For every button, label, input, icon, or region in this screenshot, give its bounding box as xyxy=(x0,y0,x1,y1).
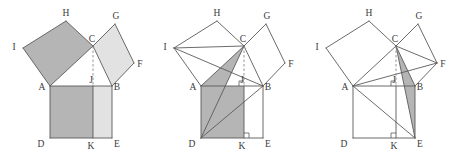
vertex-label-B: B xyxy=(114,82,120,92)
edge-CG xyxy=(396,24,418,46)
right-angle-at-K xyxy=(244,133,249,138)
vertex-label-C: C xyxy=(392,34,398,44)
rectangle-JBEK xyxy=(93,86,112,138)
square-on-leg-BC xyxy=(93,24,134,86)
vertex-label-F: F xyxy=(288,59,293,69)
vertex-label-G: G xyxy=(264,11,271,21)
pythagorean-proof-figure: ABCDEFGHIJKABCDEFGHIJKABCDEFGHIJK xyxy=(0,0,455,161)
vertex-label-K: K xyxy=(391,141,398,151)
vertex-label-A: A xyxy=(39,82,46,92)
edge-GF xyxy=(418,24,437,63)
vertex-label-I: I xyxy=(315,42,318,52)
vertex-label-C: C xyxy=(240,34,246,44)
edge-CB xyxy=(244,46,263,86)
right-angle-at-K xyxy=(391,133,396,138)
vertex-label-B: B xyxy=(265,82,271,92)
edge-IH xyxy=(174,21,217,48)
panel-left-square-equals-left-rectangle: ABCDEFGHIJK xyxy=(163,8,293,151)
figure-canvas: ABCDEFGHIJKABCDEFGHIJKABCDEFGHIJK xyxy=(0,0,455,161)
rectangle-ADKJ xyxy=(50,86,93,138)
edge-GF xyxy=(266,24,285,63)
vertex-label-E: E xyxy=(417,139,423,149)
vertex-label-B: B xyxy=(417,82,423,92)
panel-right-square-equals-right-rectangle: ABCDEFGHIJK xyxy=(315,8,445,151)
vertex-label-I: I xyxy=(163,42,166,52)
vertex-label-J: J xyxy=(240,75,244,85)
vertex-label-I: I xyxy=(12,42,15,52)
vertex-label-A: A xyxy=(190,82,197,92)
vertex-label-D: D xyxy=(189,139,196,149)
edge-IH xyxy=(326,21,369,48)
vertex-label-J: J xyxy=(89,75,93,85)
panel-initial-configuration: ABCDEFGHIJK xyxy=(12,8,142,151)
vertex-label-H: H xyxy=(214,8,221,18)
vertex-label-A: A xyxy=(342,82,349,92)
vertex-label-C: C xyxy=(89,34,95,44)
edge-CG xyxy=(244,24,266,46)
vertex-label-D: D xyxy=(38,139,45,149)
vertex-label-H: H xyxy=(63,8,70,18)
vertex-label-F: F xyxy=(137,59,142,69)
edge-AI xyxy=(326,48,353,86)
vertex-label-K: K xyxy=(239,141,246,151)
vertex-label-G: G xyxy=(113,11,120,21)
vertex-label-F: F xyxy=(440,59,445,69)
cevian-IC xyxy=(174,46,244,48)
vertex-label-H: H xyxy=(366,8,373,18)
vertex-label-E: E xyxy=(114,139,120,149)
vertex-label-E: E xyxy=(265,139,271,149)
vertex-label-K: K xyxy=(88,141,95,151)
vertex-label-D: D xyxy=(341,139,348,149)
square-on-leg-AC xyxy=(23,21,93,86)
vertex-label-G: G xyxy=(416,11,423,21)
vertex-label-J: J xyxy=(392,75,396,85)
